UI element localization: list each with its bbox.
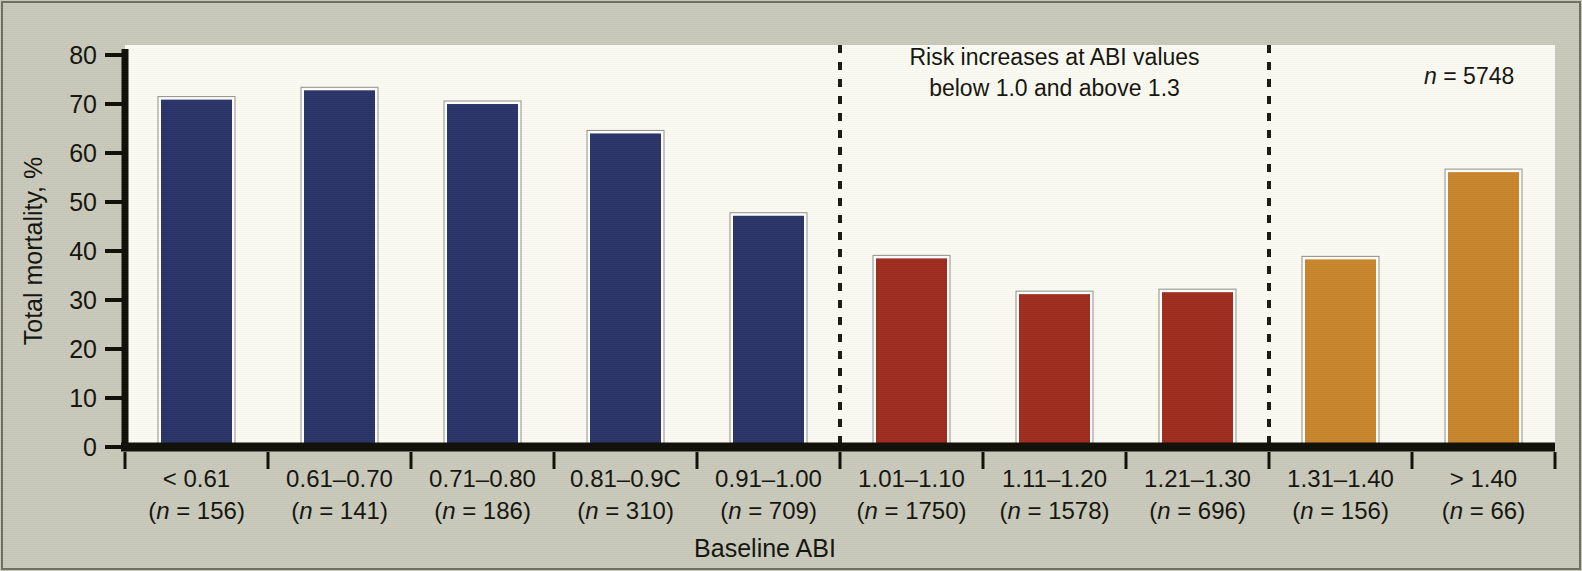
bar-7[interactable]: [1018, 293, 1092, 447]
annotation-risk-line-2: below 1.0 and above 1.3: [929, 75, 1180, 101]
x-category-count-10: (n = 66): [1442, 497, 1525, 524]
y-tick-label: 80: [69, 41, 97, 69]
x-category-label-2: 0.61–0.70: [286, 465, 393, 492]
x-axis-title: Baseline ABI: [694, 534, 836, 562]
x-category-label-7: 1.11–1.20: [1002, 465, 1107, 492]
x-category-count-8: (n = 696): [1149, 497, 1246, 524]
y-tick-label: 60: [69, 139, 97, 167]
y-tick-label: 70: [69, 90, 97, 118]
bar-5[interactable]: [732, 214, 806, 447]
x-category-count-5: (n = 709): [720, 497, 817, 524]
x-category-label-8: 1.21–1.30: [1144, 465, 1251, 492]
x-category-label-10: > 1.40: [1450, 465, 1517, 492]
x-category-label-6: 1.01–1.10: [858, 465, 965, 492]
x-category-count-1: (n = 156): [148, 497, 245, 524]
annotation-total-n: n = 5748: [1424, 63, 1514, 89]
x-axis: < 0.61(n = 156)0.61–0.70(n = 141)0.71–0.…: [125, 452, 1555, 524]
x-category-label-4: 0.81–0.9C: [570, 465, 681, 492]
x-category-count-4: (n = 310): [577, 497, 674, 524]
bar-4[interactable]: [589, 132, 663, 447]
bar-8[interactable]: [1161, 291, 1235, 447]
y-axis: 01020304050607080: [69, 41, 125, 461]
annotation-risk-line-1: Risk increases at ABI values: [909, 44, 1199, 70]
bar-9[interactable]: [1304, 258, 1378, 447]
y-tick-label: 10: [69, 384, 97, 412]
bar-6[interactable]: [875, 257, 949, 447]
bar-2[interactable]: [303, 89, 377, 447]
x-category-count-2: (n = 141): [291, 497, 388, 524]
bar-3[interactable]: [446, 103, 520, 447]
y-tick-label: 30: [69, 286, 97, 314]
y-axis-title: Total mortality, %: [19, 157, 47, 345]
bar-chart: 01020304050607080Total mortality, %< 0.6…: [0, 0, 1582, 571]
x-category-count-9: (n = 156): [1292, 497, 1389, 524]
y-tick-label: 40: [69, 237, 97, 265]
x-category-label-5: 0.91–1.00: [715, 465, 822, 492]
bar-1[interactable]: [160, 98, 234, 447]
x-category-label-3: 0.71–0.80: [429, 465, 536, 492]
x-category-count-7: (n = 1578): [999, 497, 1109, 524]
figure-container: 01020304050607080Total mortality, %< 0.6…: [0, 0, 1582, 571]
x-category-count-6: (n = 1750): [856, 497, 966, 524]
bar-10[interactable]: [1447, 171, 1521, 447]
y-tick-label: 0: [83, 433, 97, 461]
y-tick-label: 50: [69, 188, 97, 216]
x-category-count-3: (n = 186): [434, 497, 531, 524]
x-category-label-1: < 0.61: [163, 465, 230, 492]
y-tick-label: 20: [69, 335, 97, 363]
x-category-label-9: 1.31–1.40: [1287, 465, 1394, 492]
